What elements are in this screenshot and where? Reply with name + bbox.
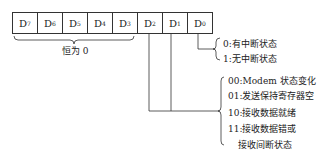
d0-brace xyxy=(213,38,220,60)
high-bits-brace xyxy=(14,36,134,44)
d2d1-option-11: 11:接收数据错或 xyxy=(228,122,296,135)
high-bits-label: 恒为 0 xyxy=(62,44,89,57)
d2d1-brace xyxy=(218,77,224,145)
d0-connector xyxy=(198,34,215,49)
d2d1-option-00: 00:Modem 状态变化 xyxy=(228,74,316,87)
d0-option-0: 0:有中断状态 xyxy=(223,37,277,50)
d2-connector xyxy=(149,34,220,111)
d2d1-option-01: 01:发送保持寄存器空 xyxy=(228,89,314,102)
d0-option-1: 1:无中断状态 xyxy=(223,52,277,65)
d2d1-option-11-cont: 接收间断状态 xyxy=(238,138,292,151)
d2d1-option-10: 10:接收数据就绪 xyxy=(228,106,296,119)
